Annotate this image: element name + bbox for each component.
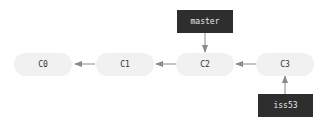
branch-ref-master: master (177, 10, 233, 33)
branch-ref-iss53: iss53 (258, 94, 313, 117)
commit-node-c1: C1 (96, 53, 154, 76)
commit-node-c3: C3 (256, 53, 314, 76)
commit-node-c0: C0 (14, 53, 72, 76)
git-branch-diagram: C0 C1 C2 C3 master iss53 (0, 0, 322, 127)
commit-node-c2: C2 (176, 53, 234, 76)
